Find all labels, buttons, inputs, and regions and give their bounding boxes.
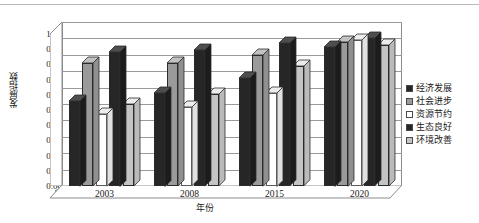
legend-label: 生态良好 bbox=[416, 122, 452, 133]
chart-screenshot: 1.000.900.800.700.600.500.400.300.200.10… bbox=[0, 0, 479, 223]
bar-side-face bbox=[107, 108, 113, 186]
bar-side-face bbox=[304, 60, 310, 186]
bar bbox=[324, 47, 335, 186]
x-axis-tick-label: 2015 bbox=[232, 189, 317, 199]
legend-label: 资源节约 bbox=[416, 109, 452, 120]
bar-side-face bbox=[348, 36, 354, 186]
bar-side-face bbox=[165, 87, 171, 186]
bar-side-face bbox=[178, 57, 184, 186]
legend-label: 社会进步 bbox=[416, 96, 452, 107]
bar-side-face bbox=[263, 49, 269, 186]
bar bbox=[154, 93, 165, 186]
plot-area bbox=[62, 22, 402, 186]
legend-label: 环境改善 bbox=[416, 135, 452, 146]
bar-side-face bbox=[192, 101, 198, 186]
bar bbox=[69, 101, 80, 186]
chart-left-wall bbox=[50, 22, 62, 186]
bar-side-face bbox=[80, 95, 86, 186]
bar-face bbox=[324, 47, 335, 186]
bar bbox=[239, 78, 250, 186]
x-axis-tick-label: 2008 bbox=[147, 189, 232, 199]
bar-side-face bbox=[290, 37, 296, 186]
x-axis-title: 年份 bbox=[196, 201, 214, 214]
bar-side-face bbox=[120, 46, 126, 186]
bar-side-face bbox=[250, 72, 256, 186]
bar-side-face bbox=[93, 57, 99, 186]
legend-label: 经济发展 bbox=[416, 83, 452, 94]
bar-face bbox=[239, 78, 250, 186]
bar-side-face bbox=[375, 32, 381, 186]
y-axis-title: 发展指数 bbox=[6, 72, 19, 108]
legend-swatch-icon bbox=[406, 98, 413, 105]
bar-side-face bbox=[335, 41, 341, 186]
legend-swatch-icon bbox=[406, 111, 413, 118]
legend-item: 经济发展 bbox=[406, 82, 478, 95]
bar-side-face bbox=[389, 39, 395, 186]
page-top-rule bbox=[0, 4, 479, 5]
bar-side-face bbox=[219, 88, 225, 186]
legend-item: 社会进步 bbox=[406, 95, 478, 108]
bar-face bbox=[69, 101, 80, 186]
bar-series-container bbox=[62, 22, 402, 186]
legend-swatch-icon bbox=[406, 124, 413, 131]
bar-face bbox=[154, 93, 165, 186]
legend-item: 资源节约 bbox=[406, 108, 478, 121]
legend-item: 环境改善 bbox=[406, 134, 478, 147]
x-axis-tick-label: 2003 bbox=[62, 189, 147, 199]
bar-side-face bbox=[362, 34, 368, 186]
x-axis-tick-label: 2020 bbox=[317, 189, 402, 199]
bar-side-face bbox=[277, 87, 283, 186]
bar-side-face bbox=[134, 98, 140, 186]
chart-legend: 经济发展社会进步资源节约生态良好环境改善 bbox=[406, 82, 478, 147]
bar-side-face bbox=[205, 44, 211, 186]
legend-swatch-icon bbox=[406, 137, 413, 144]
x-axis-labels: 2003200820152020 bbox=[62, 189, 414, 203]
legend-swatch-icon bbox=[406, 85, 413, 92]
legend-item: 生态良好 bbox=[406, 121, 478, 134]
